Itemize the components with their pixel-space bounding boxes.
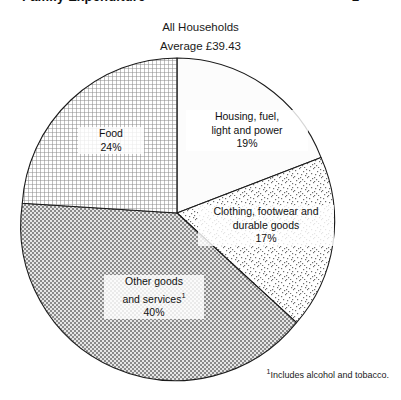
pie-label-clothing-value: 17% (200, 232, 332, 246)
pie-label-housing-line2: light and power (188, 124, 306, 138)
footnote: 1Includes alcohol and tobacco. (0, 368, 389, 380)
pie-label-clothing: Clothing, footwear and durable goods 17% (198, 205, 334, 246)
pie-label-other-line2-text: and services (122, 292, 181, 304)
pie-label-food-value: 24% (80, 141, 142, 155)
pie-label-housing: Housing, fuel, light and power 19% (186, 110, 308, 151)
footnote-marker-inline: 1 (181, 291, 185, 300)
pie-label-other-line1: Other goods (106, 275, 202, 289)
pie-chart-svg (0, 0, 401, 400)
pie-label-other-value: 40% (106, 306, 202, 320)
pie-label-housing-value: 19% (188, 137, 306, 151)
footnote-text: Includes alcohol and tobacco. (270, 370, 389, 380)
pie-label-clothing-line2: durable goods (200, 219, 332, 233)
pie-label-clothing-line1: Clothing, footwear and (200, 205, 332, 219)
pie-chart (0, 0, 401, 400)
pie-label-food: Food 24% (78, 127, 144, 154)
pie-label-other-goods: Other goods and services1 40% (104, 275, 204, 319)
pie-label-food-name: Food (80, 127, 142, 141)
pie-label-other-line2: and services1 (106, 289, 202, 306)
pie-label-housing-line1: Housing, fuel, (188, 110, 306, 124)
